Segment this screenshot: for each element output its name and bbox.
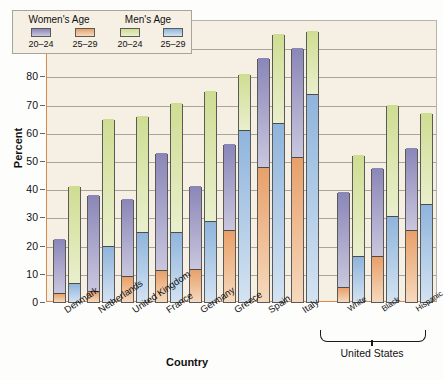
bar-women-25-29 bbox=[258, 168, 269, 302]
united-states-bracket-nub bbox=[371, 340, 373, 346]
bar bbox=[238, 75, 251, 303]
bar bbox=[405, 149, 418, 303]
bar-men-20-24 bbox=[137, 116, 148, 233]
bar bbox=[337, 193, 350, 303]
y-tick-label: 0 bbox=[4, 296, 38, 308]
legend-key-women-25-29: 25–29 bbox=[68, 39, 102, 49]
bar-men-20-24 bbox=[69, 186, 80, 283]
bar-men-25-29 bbox=[239, 131, 250, 302]
bar-women-20-24 bbox=[156, 153, 167, 271]
bar-men-25-29 bbox=[421, 205, 432, 302]
bar-women-25-29 bbox=[292, 158, 303, 302]
bar-men-25-29 bbox=[387, 217, 398, 302]
chart-legend: Women's Age Men's Age 20–24 25–29 20–24 … bbox=[12, 10, 192, 54]
bar-men-25-29 bbox=[171, 233, 182, 302]
bar bbox=[136, 117, 149, 303]
bar-women-25-29 bbox=[338, 288, 349, 302]
legend-swatch-men-25-29 bbox=[163, 28, 183, 37]
bar bbox=[257, 59, 270, 303]
bar bbox=[371, 169, 384, 303]
y-tick-mark bbox=[40, 76, 45, 77]
y-tick-mark bbox=[40, 161, 45, 162]
y-tick-label: 60 bbox=[4, 127, 38, 139]
bar bbox=[352, 156, 365, 303]
y-tick-label: 70 bbox=[4, 99, 38, 111]
bar-women-25-29 bbox=[406, 231, 417, 302]
bar-men-20-24 bbox=[205, 91, 216, 222]
y-tick-label: 20 bbox=[4, 240, 38, 252]
bar bbox=[291, 49, 304, 303]
y-tick-label: 10 bbox=[4, 268, 38, 280]
bar-women-20-24 bbox=[258, 58, 269, 168]
bar-men-20-24 bbox=[273, 34, 284, 124]
y-tick-mark bbox=[40, 274, 45, 275]
bar bbox=[189, 187, 202, 303]
bar-women-20-24 bbox=[122, 199, 133, 277]
bar-women-20-24 bbox=[292, 48, 303, 158]
legend-swatch-women-20-24 bbox=[31, 28, 51, 37]
bar bbox=[386, 106, 399, 303]
bar-women-25-29 bbox=[372, 257, 383, 302]
bar bbox=[272, 35, 285, 303]
legend-swatch-women-25-29 bbox=[75, 28, 95, 37]
bar-men-20-24 bbox=[307, 31, 318, 94]
bar-men-20-24 bbox=[239, 74, 250, 132]
y-tick-label: 40 bbox=[4, 183, 38, 195]
y-tick-mark bbox=[40, 189, 45, 190]
y-tick-mark bbox=[40, 302, 45, 303]
legend-key-men-25-29: 25–29 bbox=[156, 39, 190, 49]
bar-women-20-24 bbox=[406, 148, 417, 231]
bar bbox=[204, 92, 217, 304]
bar bbox=[420, 114, 433, 303]
plot-area bbox=[46, 20, 437, 302]
bar-women-20-24 bbox=[190, 186, 201, 269]
legend-group-women-title: Women's Age bbox=[17, 14, 101, 25]
bar bbox=[68, 187, 81, 303]
united-states-bracket-label: United States bbox=[321, 347, 423, 359]
bar bbox=[306, 32, 319, 303]
bar bbox=[53, 240, 66, 303]
bar-men-20-24 bbox=[171, 103, 182, 233]
bar-men-20-24 bbox=[353, 155, 364, 257]
bar-women-20-24 bbox=[338, 192, 349, 288]
bar-men-20-24 bbox=[421, 113, 432, 205]
bar-men-20-24 bbox=[103, 119, 114, 247]
y-tick-mark bbox=[40, 217, 45, 218]
legend-group-men-title: Men's Age bbox=[107, 14, 189, 25]
y-tick-mark bbox=[40, 133, 45, 134]
bar bbox=[223, 145, 236, 303]
legend-key-men-20-24: 20–24 bbox=[113, 39, 147, 49]
bar bbox=[102, 120, 115, 303]
bar-women-20-24 bbox=[224, 144, 235, 231]
y-tick-mark bbox=[40, 246, 45, 247]
y-tick-label: 80 bbox=[4, 70, 38, 82]
united-states-bracket bbox=[320, 330, 426, 342]
bar-women-20-24 bbox=[54, 239, 65, 294]
legend-swatch-men-20-24 bbox=[120, 28, 140, 37]
y-tick-label: 50 bbox=[4, 155, 38, 167]
bar-men-25-29 bbox=[307, 95, 318, 302]
bar-women-20-24 bbox=[372, 168, 383, 257]
bar-men-20-24 bbox=[387, 105, 398, 218]
y-tick-label: 30 bbox=[4, 211, 38, 223]
bar-women-25-29 bbox=[54, 294, 65, 302]
bar-women-20-24 bbox=[88, 195, 99, 292]
bar-men-25-29 bbox=[205, 222, 216, 302]
y-tick-mark bbox=[40, 105, 45, 106]
bar-men-25-29 bbox=[137, 233, 148, 302]
legend-key-women-20-24: 20–24 bbox=[24, 39, 58, 49]
bar-men-25-29 bbox=[273, 124, 284, 302]
